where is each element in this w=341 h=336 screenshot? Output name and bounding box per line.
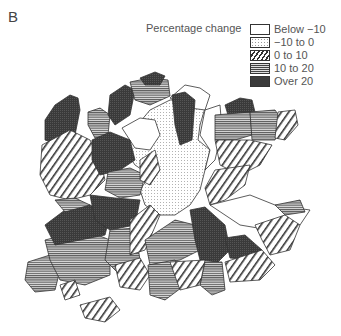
region-ne-diag-1 — [275, 110, 298, 140]
region-n-dark-2 — [140, 72, 165, 85]
region-sc-dark — [190, 207, 230, 262]
region-s-diag-3 — [80, 297, 120, 322]
region-ne-hlines-1 — [215, 112, 252, 140]
region-wc-hlines — [105, 168, 145, 198]
choropleth-map — [0, 0, 341, 336]
region-n-dark-1 — [108, 85, 135, 125]
region-central — [125, 100, 210, 215]
